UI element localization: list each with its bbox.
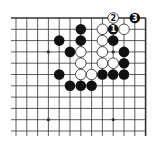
black-stone: [108, 35, 119, 46]
black-stone: [119, 47, 130, 58]
go-board: 213: [0, 0, 159, 149]
black-stone: [54, 69, 65, 80]
star-point: [112, 50, 115, 53]
white-stone: [76, 69, 87, 80]
star-point: [47, 118, 50, 121]
black-stone: [65, 47, 76, 58]
star-point: [112, 118, 115, 121]
white-stone: [76, 47, 87, 58]
black-stone: [86, 81, 97, 92]
black-stone: [54, 35, 65, 46]
move-number-label: 2: [110, 14, 116, 23]
white-stone: [97, 35, 108, 46]
white-stone: [119, 24, 130, 35]
stones: 213: [54, 13, 140, 91]
white-stone: [108, 58, 119, 69]
black-stone: [76, 24, 87, 35]
black-stone: [97, 69, 108, 80]
white-stone: [97, 47, 108, 58]
white-stone: [97, 58, 108, 69]
move-number-label: 3: [132, 14, 138, 23]
black-stone: [76, 81, 87, 92]
black-stone: [119, 58, 130, 69]
black-stone: [108, 69, 119, 80]
star-point: [47, 50, 50, 53]
black-stone: [65, 81, 76, 92]
white-stone: [97, 24, 108, 35]
move-number-label: 1: [110, 25, 116, 34]
black-stone: [76, 35, 87, 46]
white-stone: [76, 58, 87, 69]
black-stone: [119, 69, 130, 80]
white-stone: [86, 69, 97, 80]
